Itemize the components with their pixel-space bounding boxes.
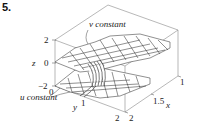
- x-axis-label: x: [166, 101, 170, 110]
- z-tick-neg2: −2: [38, 82, 48, 91]
- y-tick-0: 0: [49, 88, 54, 97]
- z-tick-2: 2: [44, 36, 49, 45]
- x-tick-1: 1: [180, 78, 185, 87]
- y-tick-1: 1: [81, 99, 86, 108]
- x-tick-2: 2: [129, 114, 134, 123]
- x-tick-1-5: 1.5: [153, 97, 164, 106]
- z-axis-label: z: [32, 59, 36, 68]
- surface-mesh: [55, 34, 170, 98]
- y-axis-label: y: [73, 103, 77, 112]
- y-tick-2: 2: [115, 114, 120, 123]
- z-tick-0: 0: [44, 59, 49, 68]
- annotation-v-constant: v constant: [89, 20, 126, 29]
